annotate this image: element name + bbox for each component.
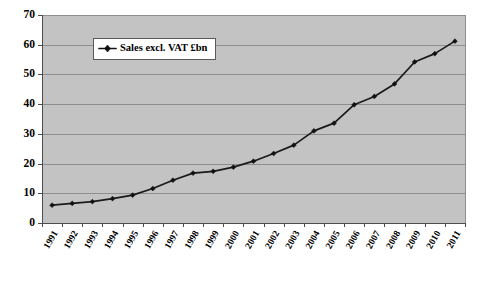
y-tick-label-50: 50	[24, 67, 36, 79]
bottom-divider-rule-shadow	[0, 274, 488, 275]
chart-legend[interactable]: Sales excl. VAT £bn	[93, 38, 215, 59]
y-tick-label-30: 30	[24, 127, 36, 139]
line-chart: 010203040506070 199119921993199419951996…	[0, 0, 488, 283]
y-tick-label-0: 0	[29, 216, 35, 228]
y-tick-label-70: 70	[24, 8, 36, 20]
chart-figure: 010203040506070 199119921993199419951996…	[0, 0, 488, 283]
legend-label-sales-excl-vat: Sales excl. VAT £bn	[120, 42, 207, 53]
y-tick-label-60: 60	[24, 38, 36, 50]
y-tick-label-10: 10	[24, 186, 36, 198]
y-tick-label-40: 40	[24, 97, 36, 109]
y-tick-label-20: 20	[24, 157, 36, 169]
